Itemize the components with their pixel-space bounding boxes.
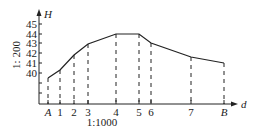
- x-tick-7: 7: [188, 106, 194, 118]
- x-tick-2: 2: [71, 106, 77, 118]
- y-tick-40: 40: [26, 67, 38, 79]
- elevation-profile-diagram: 45 44 43 42 41 40 H d 1: 200 1:1000 A 1 …: [0, 0, 258, 132]
- y-scale-label: 1: 200: [10, 41, 22, 69]
- x-axis-arrow-icon: [231, 102, 238, 107]
- dashed-drop-lines: [48, 34, 224, 104]
- y-axis-label: H: [43, 8, 53, 20]
- x-tick-3: 3: [85, 106, 91, 118]
- x-tick-4: 4: [113, 106, 119, 118]
- y-axis-arrow-icon: [37, 9, 42, 16]
- x-ticks: [48, 100, 224, 104]
- x-axis-label: d: [241, 98, 247, 110]
- x-tick-6: 6: [148, 106, 154, 118]
- x-tick-1: 1: [57, 106, 63, 118]
- x-tick-5: 5: [136, 106, 142, 118]
- x-tick-A: A: [44, 106, 52, 118]
- x-tick-B: B: [221, 106, 228, 118]
